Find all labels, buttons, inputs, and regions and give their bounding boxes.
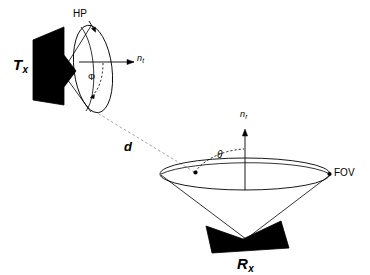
- rx-ellipse-front-arc: [161, 163, 330, 174]
- fov-label: FOV: [334, 168, 355, 178]
- rx-normal-label-subscript: r: [245, 113, 247, 120]
- optical-link-geometry-figure: Tx HP nt Φ d nr θ FOV Rx: [0, 0, 370, 275]
- rx-cone-edge-left: [161, 175, 246, 239]
- tx-cone-edge-upper: [62, 26, 91, 72]
- tx-ellipse-inner-arc: [81, 27, 94, 111]
- fov-point-marker: [327, 172, 331, 176]
- hp-pointer-arrowhead: [91, 27, 95, 32]
- incidence-point-marker: [193, 170, 197, 174]
- tx-normal-label-subscript: t: [142, 57, 144, 64]
- rx-label-subscript: x: [248, 263, 254, 274]
- rx-label-base: R: [237, 255, 248, 272]
- rx-normal-label: nr: [240, 110, 247, 120]
- tx-label-base: T: [13, 56, 22, 73]
- diagram-canvas: [0, 0, 370, 275]
- rx-label: Rx: [237, 256, 254, 274]
- rx-detector-shape: [206, 221, 289, 253]
- irradiance-angle-label: Φ: [88, 73, 95, 82]
- tx-plane-shape: [33, 27, 76, 105]
- tx-beam-ellipse: [69, 23, 117, 115]
- rx-cone-edge-right: [246, 175, 330, 239]
- incidence-angle-label: θ: [217, 150, 222, 160]
- link-distance-label: d: [124, 140, 132, 153]
- tx-normal-label: nt: [137, 54, 144, 64]
- rx-normal-arrowhead: [242, 129, 247, 136]
- tx-label: Tx: [13, 57, 28, 75]
- tx-normal-arrowhead: [127, 59, 134, 64]
- tx-label-subscript: x: [23, 64, 29, 75]
- hp-label: HP: [73, 9, 87, 19]
